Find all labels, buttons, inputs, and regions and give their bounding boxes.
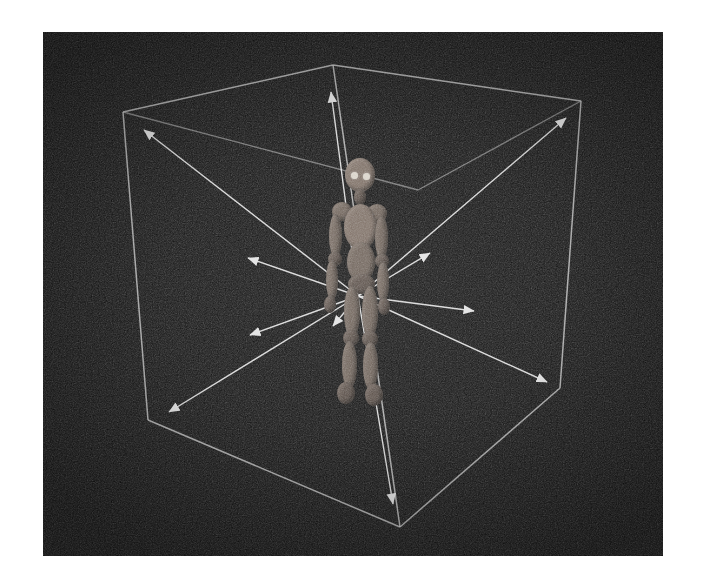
mannequin-hand-right (378, 298, 390, 315)
mannequin-forearm-left (326, 260, 338, 300)
mannequin-hand-left (324, 296, 336, 313)
cube-edge-top-back-right-to-bottom-back-right (560, 101, 581, 388)
mannequin-head (345, 158, 375, 192)
cube-edge-top-front-to-top-back-left (123, 65, 333, 112)
screenshot-root: 3D bounding box with radial direction ar… (0, 0, 703, 580)
cube-edge-top-back-left-to-bottom-back-left (123, 112, 148, 420)
mannequin-forearm-right (377, 262, 389, 302)
cube-edge-top-back-right-to-top-back-center (418, 101, 581, 190)
mannequin-body (299, 158, 419, 408)
cube-edge-bottom-front-to-bottom-back-left (148, 420, 400, 527)
mannequin-foot-right (365, 384, 383, 406)
cube-edge-bottom-front-to-bottom-back-right (400, 388, 560, 527)
mannequin-eye-left (351, 172, 358, 179)
mannequin-shin-right (363, 342, 378, 390)
mannequin-neck (354, 189, 366, 205)
cube-edge-top-front-to-top-back-right (333, 65, 581, 101)
mannequin-foot-left (337, 382, 355, 404)
mannequin-eye-right (363, 173, 370, 180)
render-viewport (43, 32, 663, 556)
humanoid-mannequin (299, 158, 419, 408)
